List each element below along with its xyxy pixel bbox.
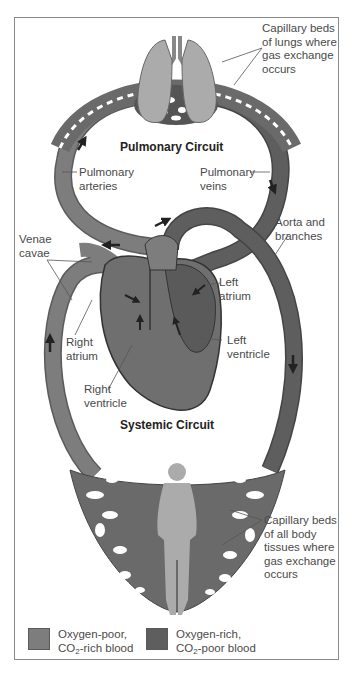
label-aorta-branches: Aorta and branches (275, 216, 325, 243)
label-pulmonary-veins: Pulmonary veins (200, 166, 255, 193)
systemic-circuit-title: Systemic Circuit (120, 418, 214, 432)
legend-text-oxygen-poor: Oxygen-poor, CO2-rich blood (58, 628, 133, 655)
legend-item-oxygen-rich: Oxygen-rich, CO2-poor blood (146, 628, 256, 655)
label-pulmonary-arteries: Pulmonary arteries (79, 166, 134, 193)
pulmonary-circuit-title: Pulmonary Circuit (120, 140, 223, 154)
legend-item-oxygen-poor: Oxygen-poor, CO2-rich blood (28, 628, 133, 655)
label-right-atrium: Right atrium (66, 336, 98, 363)
label-lung-capillary-beds: Capillary beds of lungs where gas exchan… (262, 22, 337, 76)
label-left-atrium: Left atrium (219, 276, 251, 303)
legend-text-oxygen-rich: Oxygen-rich, CO2-poor blood (176, 628, 256, 655)
label-left-ventricle: Left ventricle (227, 334, 270, 361)
lung-capillary-bed (60, 85, 292, 148)
label-body-capillary-beds: Capillary beds of all body tissues where… (264, 514, 337, 582)
oxygen-rich-swatch (146, 628, 168, 650)
label-right-ventricle: Right ventricle (84, 383, 127, 410)
oxygen-poor-swatch (28, 628, 50, 650)
label-venae-cavae: Venae cavae (19, 233, 52, 260)
